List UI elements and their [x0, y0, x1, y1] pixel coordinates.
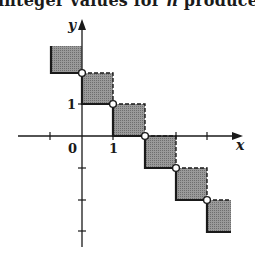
open-circle-icon — [79, 70, 86, 77]
open-circle-icon — [142, 133, 149, 140]
step-region-diagram: y x 0 1 1 — [0, 0, 255, 270]
square-1 — [51, 46, 82, 73]
square-5 — [176, 168, 207, 200]
open-circle-icon — [204, 197, 211, 204]
square-2 — [82, 73, 113, 104]
origin-label: 0 — [68, 141, 77, 156]
square-3 — [113, 104, 145, 136]
x-tick-label-1: 1 — [109, 141, 118, 156]
x-axis-label: x — [235, 137, 245, 153]
y-tick-label-1: 1 — [67, 97, 76, 112]
open-circle-icon — [173, 165, 180, 172]
square-4 — [145, 136, 176, 168]
y-axis-label: y — [67, 17, 77, 33]
y-axis-arrow-icon — [78, 19, 86, 30]
square-6 — [207, 200, 231, 232]
square-edges — [51, 46, 231, 232]
open-circle-icon — [110, 101, 117, 108]
